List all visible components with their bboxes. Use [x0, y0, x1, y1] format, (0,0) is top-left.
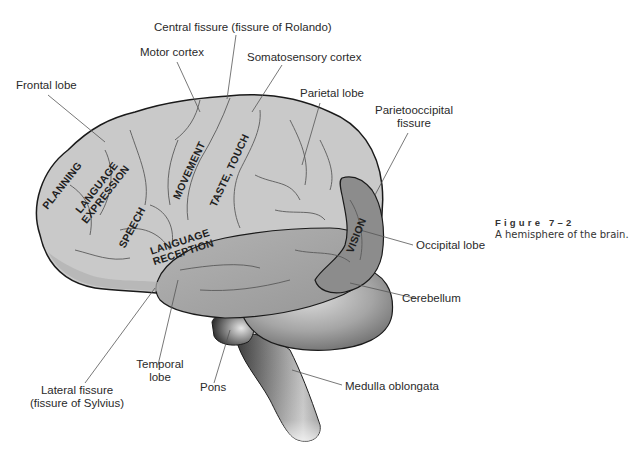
label-motor-cortex: Motor cortex: [140, 46, 204, 59]
label-frontal-lobe: Frontal lobe: [16, 79, 77, 92]
label-temporal-line1: Temporal: [130, 358, 190, 371]
label-parietal-lobe: Parietal lobe: [300, 87, 364, 100]
label-parietooccipital-line1: Parietooccipital: [374, 104, 454, 117]
label-lateral-fissure: Lateral fissure (fissure of Sylvius): [22, 384, 132, 410]
label-somatosensory-cortex: Somatosensory cortex: [247, 51, 361, 64]
label-parietooccipital-fissure: Parietooccipital fissure: [374, 104, 454, 130]
label-cerebellum: Cerebellum: [402, 292, 461, 305]
brain-diagram: Central fissure (fissure of Rolando) Mot…: [0, 0, 638, 461]
figure-caption: A hemisphere of the brain.: [495, 229, 629, 240]
label-lateral-line1: Lateral fissure: [22, 384, 132, 397]
label-parietooccipital-line2: fissure: [374, 117, 454, 130]
figure-number: Figure 7–2: [495, 217, 575, 228]
label-pons: Pons: [200, 381, 226, 394]
label-temporal-line2: lobe: [130, 371, 190, 384]
label-lateral-line2: (fissure of Sylvius): [22, 397, 132, 410]
label-temporal-lobe: Temporal lobe: [130, 358, 190, 384]
label-occipital-lobe: Occipital lobe: [416, 239, 485, 252]
label-central-fissure: Central fissure (fissure of Rolando): [154, 21, 332, 34]
label-medulla-oblongata: Medulla oblongata: [345, 380, 439, 393]
